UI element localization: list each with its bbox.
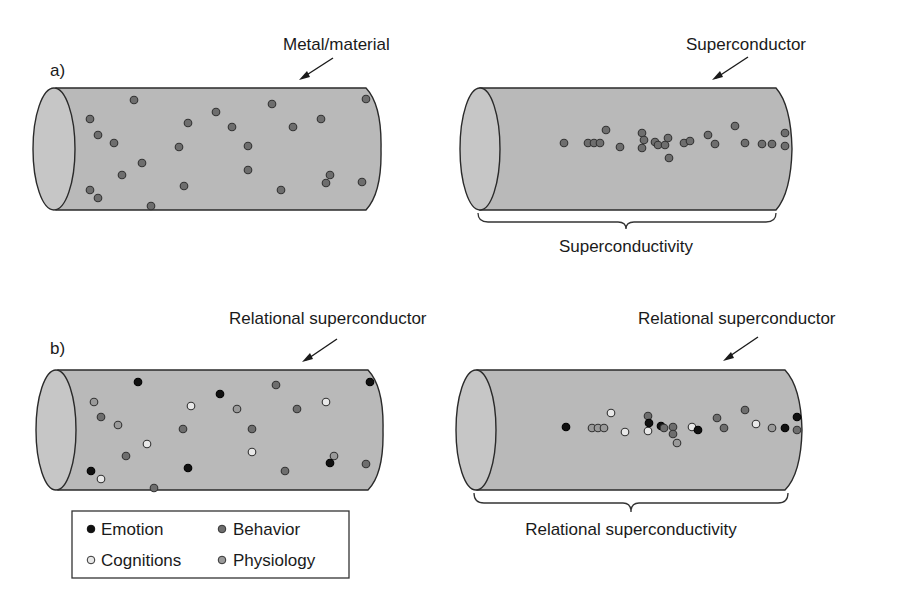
particle-behavior [644, 412, 652, 420]
relational-superconductor-label-left: Relational superconductor [229, 309, 427, 328]
particle-cognitions [644, 427, 652, 435]
particle-behavior [110, 139, 118, 147]
particle-behavior [317, 115, 325, 123]
cylinder-relational-left [36, 370, 383, 492]
legend: Emotion Behavior Cognitions Physiology [72, 511, 349, 578]
particle-physiology [114, 421, 122, 429]
legend-behavior-label: Behavior [233, 520, 300, 539]
particle-behavior [638, 129, 646, 137]
particle-emotion [87, 467, 95, 475]
legend-cognitions-label: Cognitions [101, 551, 181, 570]
particle-behavior [616, 143, 624, 151]
particle-behavior [130, 96, 138, 104]
brace-superconductivity [478, 213, 776, 229]
particle-behavior [768, 140, 776, 148]
particle-cognitions [143, 440, 151, 448]
arrowhead-superconductor [712, 71, 723, 80]
legend-emotion-label: Emotion [101, 520, 163, 539]
particle-emotion [793, 413, 801, 421]
particle-behavior [272, 381, 280, 389]
particle-behavior [293, 405, 301, 413]
particle-behavior [322, 179, 330, 187]
particle-emotion [134, 378, 142, 386]
particle-cognitions [97, 475, 105, 483]
particle-behavior [741, 406, 749, 414]
particle-behavior [602, 126, 610, 134]
particle-behavior [147, 202, 155, 210]
particle-physiology [673, 439, 681, 447]
panel-b-label: b) [50, 339, 65, 358]
particle-behavior [660, 424, 668, 432]
particle-behavior [244, 166, 252, 174]
particle-behavior [289, 123, 297, 131]
particle-behavior [713, 414, 721, 422]
superconductivity-caption: Superconductivity [559, 237, 694, 256]
legend-emotion-marker [87, 525, 95, 533]
particle-behavior [180, 182, 188, 190]
particle-emotion [326, 459, 334, 467]
particle-behavior [118, 171, 126, 179]
particle-behavior [664, 134, 672, 142]
superconductor-label: Superconductor [686, 35, 806, 54]
particle-behavior [781, 129, 789, 137]
particle-cognitions [322, 398, 330, 406]
particle-physiology [330, 452, 338, 460]
particle-behavior [686, 137, 694, 145]
arrowhead-metal [299, 71, 310, 80]
cylinder-superconductor [460, 88, 792, 210]
particle-behavior [596, 139, 604, 147]
particle-emotion [562, 423, 570, 431]
particle-behavior [248, 425, 256, 433]
particle-behavior [179, 425, 187, 433]
particle-behavior [665, 154, 673, 162]
particle-cognitions [187, 402, 195, 410]
particle-behavior [793, 426, 801, 434]
metal-material-label: Metal/material [283, 35, 390, 54]
particle-behavior [362, 95, 370, 103]
particle-behavior [781, 142, 789, 150]
particle-behavior [138, 159, 146, 167]
relational-superconductor-label-right: Relational superconductor [638, 309, 836, 328]
particle-behavior [758, 140, 766, 148]
particle-behavior [150, 484, 158, 492]
particle-behavior [362, 460, 370, 468]
particle-physiology [768, 424, 776, 432]
particle-behavior [184, 119, 192, 127]
particle-behavior [669, 430, 677, 438]
particle-behavior [94, 131, 102, 139]
particle-emotion [366, 378, 374, 386]
relational-superconductivity-caption: Relational superconductivity [525, 520, 737, 539]
particle-behavior [268, 100, 276, 108]
particle-behavior [244, 142, 252, 150]
particle-behavior [358, 178, 366, 186]
particle-behavior [638, 144, 646, 152]
particle-emotion [216, 390, 224, 398]
particle-behavior [86, 186, 94, 194]
particle-behavior [277, 186, 285, 194]
particle-behavior [741, 139, 749, 147]
cylinder-relational-right [456, 370, 802, 490]
particle-behavior [122, 452, 130, 460]
particle-behavior [281, 467, 289, 475]
legend-cognitions-marker [87, 556, 95, 564]
brace-relational-superconductivity [474, 493, 788, 512]
legend-physiology-label: Physiology [233, 551, 316, 570]
panel-a-label: a) [50, 61, 65, 80]
diagram-canvas: a) Metal/material Superconductor Superco… [0, 0, 914, 596]
particle-cognitions [621, 428, 629, 436]
particle-emotion [781, 424, 789, 432]
particle-behavior [228, 123, 236, 131]
arrowhead-relational-right [723, 352, 734, 361]
particle-cognitions [752, 420, 760, 428]
particle-behavior [720, 424, 728, 432]
particle-behavior [704, 131, 712, 139]
particle-emotion [645, 419, 653, 427]
particle-physiology [233, 405, 241, 413]
particle-behavior [86, 115, 94, 123]
particle-behavior [731, 122, 739, 130]
particle-behavior [661, 141, 669, 149]
particle-emotion [184, 464, 192, 472]
particle-behavior [97, 413, 105, 421]
particle-physiology [600, 424, 608, 432]
legend-physiology-marker [218, 556, 226, 564]
